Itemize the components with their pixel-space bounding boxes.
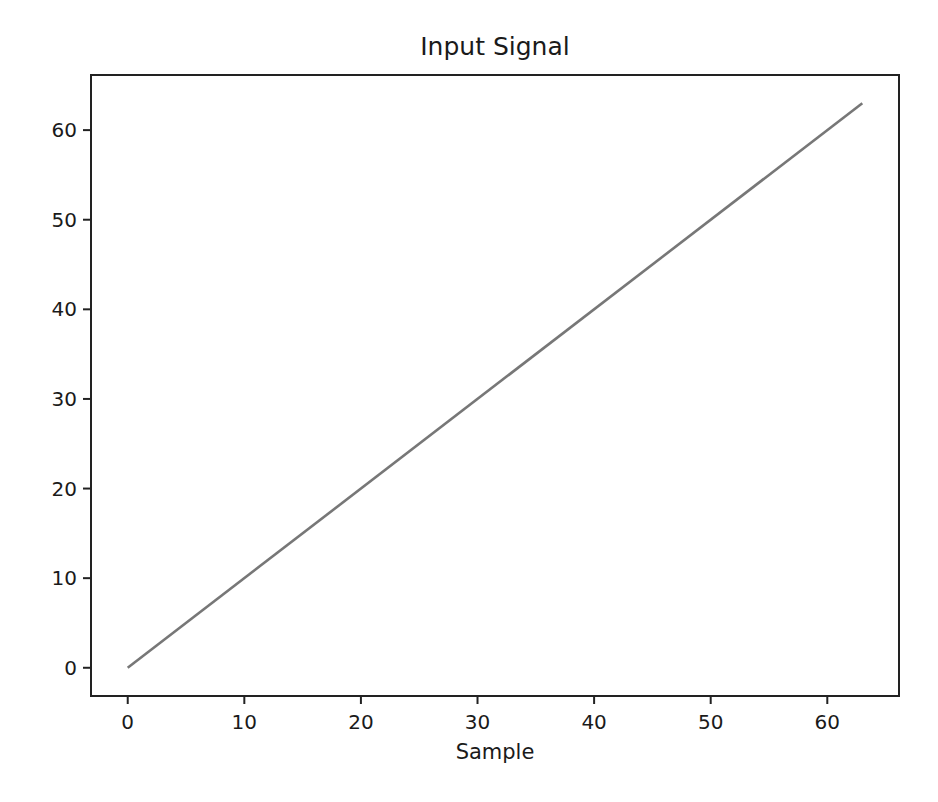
y-tick-label: 10 <box>52 566 77 590</box>
y-tick-label: 30 <box>52 387 77 411</box>
x-tick-label: 10 <box>232 710 257 734</box>
x-tick-label: 40 <box>581 710 606 734</box>
x-tick-label: 20 <box>348 710 373 734</box>
x-tick-label: 0 <box>121 710 134 734</box>
line-chart: 01020304050600102030405060 <box>0 0 938 802</box>
y-tick-label: 60 <box>52 118 77 142</box>
y-tick-label: 50 <box>52 208 77 232</box>
x-axis-label: Sample <box>91 740 899 764</box>
data-line <box>128 103 863 668</box>
y-tick-label: 40 <box>52 297 77 321</box>
y-tick-label: 20 <box>52 477 77 501</box>
y-tick-label: 0 <box>64 656 77 680</box>
x-tick-label: 60 <box>815 710 840 734</box>
x-tick-label: 30 <box>465 710 490 734</box>
x-tick-label: 50 <box>698 710 723 734</box>
